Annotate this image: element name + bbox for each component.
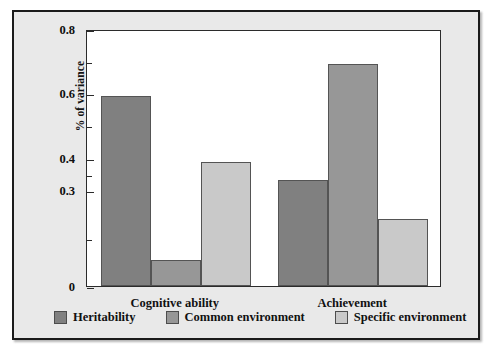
legend-item-specific-environment[interactable]: Specific environment xyxy=(335,310,467,325)
legend-label: Common environment xyxy=(185,310,305,325)
bar-cognitive-ability-heritability xyxy=(101,96,151,286)
y-axis-title: % of variance xyxy=(74,26,86,166)
legend-item-heritability[interactable]: Heritability xyxy=(54,310,136,325)
x-axis-category-label: Achievement xyxy=(318,296,387,311)
bar-achievement-heritability xyxy=(278,180,328,286)
y-axis-tick-label: 0.8 xyxy=(35,23,75,38)
y-axis-tick-label: 0.4 xyxy=(35,151,75,166)
bar-achievement-specific-environment xyxy=(378,219,428,286)
legend-swatch-icon xyxy=(54,311,67,324)
y-axis-tick-label: 0.3 xyxy=(35,183,75,198)
x-axis-category-label: Cognitive ability xyxy=(130,296,219,311)
legend-label: Specific environment xyxy=(354,310,467,325)
plot-area xyxy=(86,30,441,287)
figure-frame: % of variance 0.80.60.40.30 Cognitive ab… xyxy=(12,10,480,340)
legend-swatch-icon xyxy=(166,311,179,324)
y-axis-tick-label: 0.6 xyxy=(35,87,75,102)
y-axis-tick-major xyxy=(87,288,94,289)
bar-cognitive-ability-specific-environment xyxy=(201,162,251,286)
y-axis-tick-label: 0 xyxy=(35,280,75,295)
bar-achievement-common-environment xyxy=(328,64,378,286)
legend-swatch-icon xyxy=(335,311,348,324)
bar-cognitive-ability-common-environment xyxy=(151,260,201,286)
legend-label: Heritability xyxy=(73,310,136,325)
bars-layer xyxy=(87,31,440,286)
chart-legend: HeritabilityCommon environmentSpecific e… xyxy=(54,310,466,325)
legend-item-common-environment[interactable]: Common environment xyxy=(166,310,305,325)
